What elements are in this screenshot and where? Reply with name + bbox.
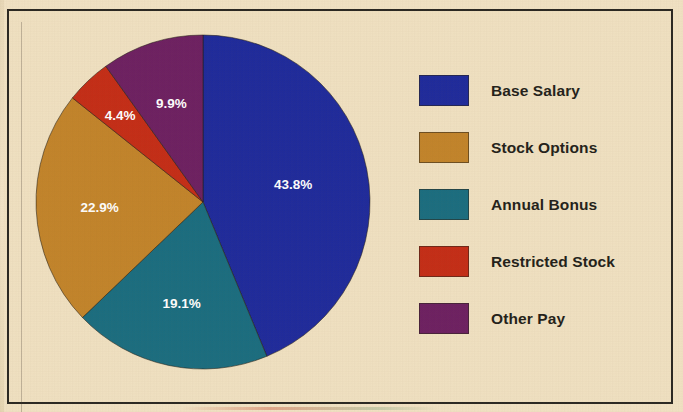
pie-chart: 43.8%19.1%22.9%4.4%9.9% <box>35 30 375 375</box>
legend-item-stock-options: Stock Options <box>419 119 649 176</box>
legend-item-label: Stock Options <box>491 139 597 157</box>
pie-slice-label-stock-options: 22.9% <box>80 200 118 215</box>
legend-swatch-icon <box>419 303 469 334</box>
pie-slice-label-other-pay: 9.9% <box>156 96 187 111</box>
legend-swatch-icon <box>419 189 469 220</box>
legend-item-base-salary: Base Salary <box>419 62 649 119</box>
pie-slice-label-annual-bonus: 19.1% <box>163 296 201 311</box>
pie-slice-label-base-salary: 43.8% <box>274 177 312 192</box>
legend-item-label: Base Salary <box>491 82 580 100</box>
legend-swatch-icon <box>419 246 469 277</box>
legend-item-label: Restricted Stock <box>491 253 615 271</box>
chart-legend: Base SalaryStock OptionsAnnual BonusRest… <box>419 62 649 347</box>
pie-chart-svg: 43.8%19.1%22.9%4.4%9.9% <box>35 30 375 375</box>
legend-swatch-icon <box>419 132 469 163</box>
pie-slice-label-restricted-stock: 4.4% <box>105 108 136 123</box>
legend-item-other-pay: Other Pay <box>419 290 649 347</box>
frame-inner-rule <box>21 22 22 412</box>
legend-swatch-icon <box>419 75 469 106</box>
legend-item-label: Annual Bonus <box>491 196 597 214</box>
legend-item-restricted-stock: Restricted Stock <box>419 233 649 290</box>
legend-item-annual-bonus: Annual Bonus <box>419 176 649 233</box>
pie-chart-screenshot: 43.8%19.1%22.9%4.4%9.9% Base SalaryStock… <box>0 0 683 412</box>
legend-item-label: Other Pay <box>491 310 565 328</box>
